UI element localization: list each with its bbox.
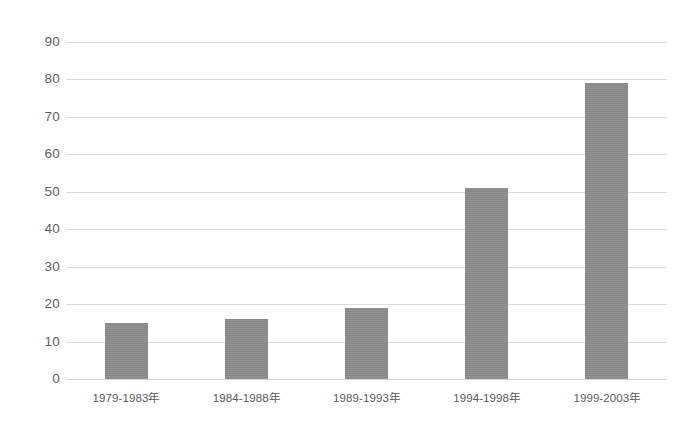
bar[interactable] (465, 188, 508, 379)
y-tick-label: 50 (4, 185, 60, 199)
x-tick-label: 1979-1983年 (66, 392, 186, 405)
y-tick-label: 80 (4, 73, 60, 87)
bar-group[interactable] (105, 42, 148, 379)
gridline (66, 379, 667, 380)
x-tick-label: 1999-2003年 (547, 392, 667, 405)
bar-group[interactable] (585, 42, 628, 379)
y-tick-label: 30 (4, 260, 60, 274)
bar-group[interactable] (465, 42, 508, 379)
y-axis: 9080706050403020100 (0, 0, 60, 441)
y-tick-label: 10 (4, 335, 60, 349)
bar-group[interactable] (225, 42, 268, 379)
y-tick-label: 70 (4, 110, 60, 124)
y-tick-label: 40 (4, 222, 60, 236)
x-tick-label: 1989-1993年 (306, 392, 426, 405)
y-tick-label: 20 (4, 297, 60, 311)
x-tick-label: 1984-1988年 (186, 392, 306, 405)
bar[interactable] (105, 323, 148, 379)
bar[interactable] (585, 83, 628, 379)
bar[interactable] (345, 308, 388, 379)
y-tick-label: 90 (4, 35, 60, 49)
bar-chart-figure: 9080706050403020100 1979-1983年1984-1988年… (0, 0, 696, 441)
y-tick-label: 60 (4, 148, 60, 162)
y-tick-label: 0 (4, 372, 60, 386)
x-tick-label: 1994-1998年 (427, 392, 547, 405)
bar-group[interactable] (345, 42, 388, 379)
bar[interactable] (225, 319, 268, 379)
